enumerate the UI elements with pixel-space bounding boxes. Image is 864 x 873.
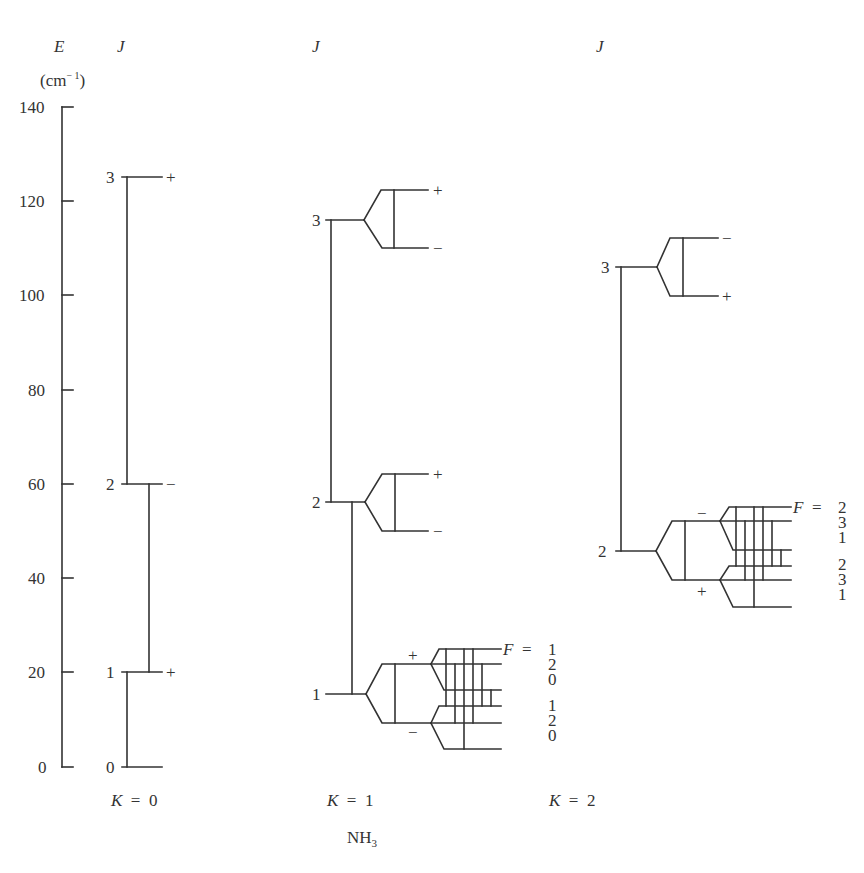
tick-label-20: 20 [28, 664, 45, 681]
f-equals: = [812, 498, 822, 517]
k1-f-value-3: 0 [548, 671, 557, 688]
k1-hyperfine-f-label: F = [503, 641, 531, 658]
k2-caption: K = 2 [549, 792, 595, 809]
k1-j1-label: 1 [312, 686, 321, 703]
f-symbol: F [793, 498, 803, 517]
tick-label-0: 0 [38, 759, 47, 776]
k0-j2-label: 2 [106, 476, 115, 493]
k1-j2-lower-parity: − [433, 523, 443, 540]
k0-ladder [122, 177, 162, 767]
axis-unit-exp: − 1 [66, 70, 79, 81]
k2-j2-upper-parity: − [697, 505, 707, 522]
k1-j1-lower-parity: − [408, 724, 418, 741]
tick-label-120: 120 [19, 193, 45, 210]
molecule-subscript: 3 [372, 837, 378, 849]
k-value: 2 [587, 791, 596, 810]
tick-label-100: 100 [19, 287, 45, 304]
k1-ladder [326, 190, 501, 749]
k2-hyperfine-f-label: F = [793, 499, 821, 516]
k2-f-value-3: 1 [838, 529, 847, 546]
k1-f-value-6: 0 [548, 727, 557, 744]
k-equals: = [569, 791, 579, 810]
k0-j3-parity: + [166, 169, 176, 186]
k-equals: = [347, 791, 357, 810]
k-symbol: K [327, 791, 338, 810]
j-header-k1: J [312, 38, 320, 55]
k0-caption: K = 0 [111, 792, 157, 809]
f-symbol: F [503, 640, 513, 659]
f-equals: = [522, 640, 532, 659]
k0-j1-label: 1 [106, 664, 115, 681]
k-value: 1 [365, 791, 374, 810]
tick-label-40: 40 [28, 570, 45, 587]
k-symbol: K [111, 791, 122, 810]
k0-j3-label: 3 [106, 169, 115, 186]
axis-unit: (cm− 1) [40, 71, 85, 89]
j-header-k0: J [117, 38, 125, 55]
k2-j2-label: 2 [598, 543, 607, 560]
k1-j3-label: 3 [312, 212, 321, 229]
axis-unit-prefix: (cm [40, 71, 66, 90]
k-equals: = [131, 791, 141, 810]
k0-j0-label: 0 [106, 759, 115, 776]
k1-caption: K = 1 [327, 792, 373, 809]
k2-j2-lower-parity: + [697, 583, 707, 600]
tick-label-140: 140 [19, 99, 45, 116]
tick-label-60: 60 [28, 476, 45, 493]
tick-label-80: 80 [28, 382, 45, 399]
k2-j3-lower-parity: + [722, 288, 732, 305]
k2-j3-upper-parity: − [722, 230, 732, 247]
k1-j1-upper-parity: + [408, 647, 418, 664]
molecule-name: NH [347, 828, 372, 847]
energy-level-diagram [0, 0, 864, 873]
k2-f-value-6: 1 [838, 586, 847, 603]
j-header-k2: J [596, 38, 604, 55]
k2-j3-label: 3 [601, 259, 610, 276]
k0-j2-parity: − [166, 476, 176, 493]
molecule-caption: NH3 [347, 829, 377, 849]
axis-unit-suffix: ) [80, 71, 86, 90]
k0-j1-parity: + [166, 664, 176, 681]
energy-axis [62, 107, 73, 767]
k-symbol: K [549, 791, 560, 810]
axis-label-energy: E [54, 38, 64, 55]
k1-j3-lower-parity: − [433, 240, 443, 257]
k1-j2-label: 2 [312, 494, 321, 511]
k2-ladder [616, 238, 791, 607]
k-value: 0 [149, 791, 158, 810]
k1-j2-upper-parity: + [433, 466, 443, 483]
k1-j3-upper-parity: + [433, 182, 443, 199]
